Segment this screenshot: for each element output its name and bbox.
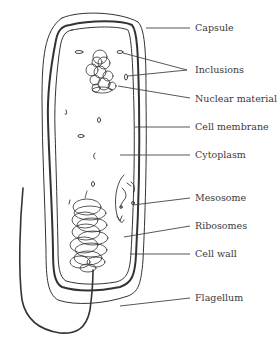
cell-membrane-outline (55, 27, 134, 284)
label-cell-membrane: Cell membrane (195, 121, 269, 132)
label-mesosome: Mesosome (195, 192, 247, 203)
inclusions-group (65, 51, 128, 205)
mesosome (115, 175, 134, 222)
label-ribosomes: Ribosomes (195, 220, 247, 231)
bacterial-cell-diagram: Capsule Inclusions Nuclear material Cell… (0, 0, 278, 346)
label-cell-wall: Cell wall (195, 248, 237, 259)
label-cytoplasm: Cytoplasm (195, 149, 246, 160)
label-flagellum: Flagellum (195, 292, 243, 303)
flagellum (20, 188, 93, 333)
nuclear-material-upper (86, 50, 116, 93)
leader-lines (118, 28, 190, 306)
nuclear-material-lower (70, 191, 108, 272)
label-nuclear-material: Nuclear material (195, 93, 277, 104)
label-capsule: Capsule (195, 22, 234, 33)
label-inclusions: Inclusions (195, 64, 244, 75)
